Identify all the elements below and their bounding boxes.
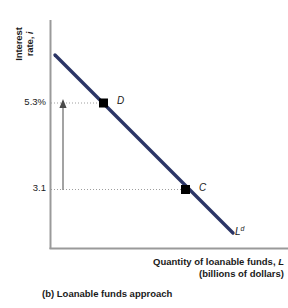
- y-axis-label-line1: Interest: [13, 27, 24, 61]
- data-point-c-marker: [181, 185, 190, 194]
- y-axis-label-symbol: i: [24, 32, 35, 35]
- data-point-d-label: D: [117, 95, 124, 106]
- x-axis-label-line2: (billions of dollars): [96, 268, 284, 280]
- x-axis-label-symbol: L: [278, 256, 284, 267]
- interest-rate-increase-arrow: [59, 99, 66, 190]
- y-tick-label-high: 5.3%: [4, 96, 46, 107]
- demand-curve-label-superscript: d: [241, 225, 245, 232]
- y-axis-label: Interest rate, i: [0, 16, 60, 72]
- loanable-funds-demand-curve: [55, 55, 233, 233]
- x-axis-label: Quantity of loanable funds, L (billions …: [96, 256, 284, 280]
- y-tick-label-low: 3.1: [4, 182, 46, 193]
- demand-curve-label: Ld: [235, 225, 244, 237]
- data-point-d-marker: [99, 99, 108, 108]
- x-axis-label-line1: Quantity of loanable funds,: [153, 256, 275, 267]
- figure-caption: (b) Loanable funds approach: [42, 288, 172, 299]
- data-point-c-label: C: [199, 182, 206, 193]
- loanable-funds-figure: Interest rate, i 5.3% 3.1 D C Ld Quantit…: [0, 0, 288, 308]
- y-axis-label-line2: rate,: [24, 37, 35, 57]
